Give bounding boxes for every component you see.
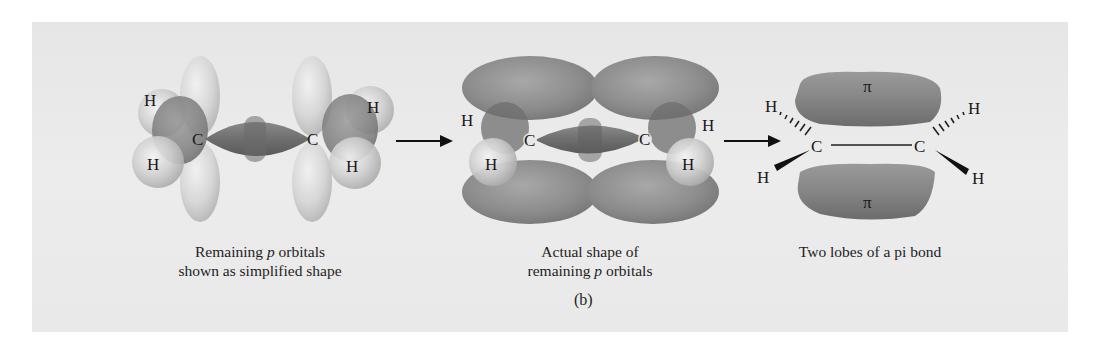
atom-h: H (972, 169, 984, 188)
caption-simplified: Remaining p orbitals shown as simplified… (130, 242, 390, 280)
arrow-icon (396, 135, 453, 147)
solid-wedge-bond (935, 150, 969, 175)
pi-bond-model: H H C C H H π π (757, 72, 984, 220)
caption-actual: Actual shape of remaining p orbitals (490, 242, 690, 280)
atom-h: H (968, 99, 980, 118)
atom-h: H (147, 155, 159, 174)
atom-h: H (765, 97, 777, 116)
atom-h: H (461, 111, 473, 130)
solid-wedge-bond (774, 150, 810, 171)
sigma-bond-core (244, 116, 266, 162)
pi-label: π (863, 193, 872, 212)
atom-c: C (307, 130, 318, 149)
actual-orbital-model: H H C C H H (461, 56, 719, 224)
pi-label: π (863, 77, 872, 96)
atom-c: C (192, 130, 203, 149)
atom-c: C (811, 137, 822, 156)
orbital-diagram: H H C C H H H H C C H H (0, 0, 1096, 346)
arrow-icon (724, 135, 781, 147)
atom-h: H (757, 168, 769, 187)
pi-lobe-top-left (462, 56, 598, 120)
hashed-wedge-bond (933, 112, 964, 135)
atom-c: C (914, 137, 925, 156)
caption-pi-bond: Two lobes of a pi bond (760, 242, 980, 261)
atom-c: C (524, 131, 535, 150)
sigma-bond-core (578, 118, 602, 162)
atom-h: H (346, 157, 358, 176)
atom-c: C (639, 130, 650, 149)
atom-h: H (144, 91, 156, 110)
simplified-orbital-model: H H C C H H (132, 56, 394, 222)
atom-h: H (367, 98, 379, 117)
atom-h: H (682, 155, 694, 174)
atom-h: H (702, 116, 714, 135)
atom-h: H (485, 155, 497, 174)
figure-label: (b) (574, 291, 593, 309)
p-lobe-right-bottom (292, 142, 332, 222)
